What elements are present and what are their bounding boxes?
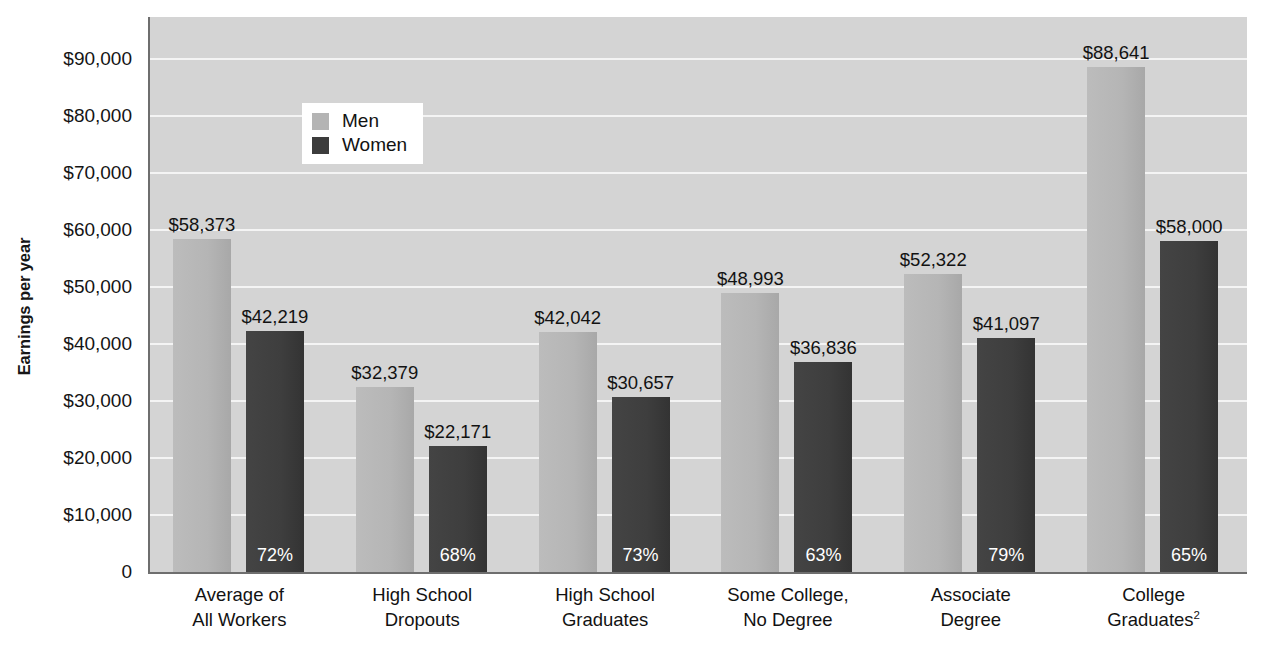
x-label-line-2: Graduates	[514, 607, 697, 632]
x-axis-category-label: AssociateDegree	[879, 582, 1062, 632]
x-axis-category-label: High SchoolDropouts	[331, 582, 514, 632]
x-label-line-2: Graduates2	[1062, 607, 1245, 632]
y-axis-tick-label: $90,000	[63, 48, 132, 70]
legend-swatch-men-icon	[312, 113, 329, 130]
y-axis-tick-label: $30,000	[63, 390, 132, 412]
chart-legend: MenWomen	[302, 103, 423, 164]
bar-men[interactable]: $88,641	[1087, 67, 1145, 572]
bar-group: $88,641$58,00065%	[150, 17, 1247, 572]
y-axis-tick-label: $20,000	[63, 447, 132, 469]
footnote-marker: 2	[1194, 609, 1200, 621]
x-axis-category-label: High SchoolGraduates	[514, 582, 697, 632]
bar-ratio-label: 65%	[1171, 545, 1207, 566]
bar-chart: Earnings per year 0$10,000$20,000$30,000…	[0, 0, 1268, 659]
legend-item-women[interactable]: Women	[312, 133, 407, 157]
x-axis-category-label: Average ofAll Workers	[148, 582, 331, 632]
bar-value-label: $58,000	[1156, 216, 1223, 238]
y-axis-tick-label: $70,000	[63, 162, 132, 184]
x-axis-category-label: CollegeGraduates2	[1062, 582, 1245, 632]
bar-value-label: $88,641	[1083, 42, 1150, 64]
x-axis-category-labels: Average ofAll WorkersHigh SchoolDropouts…	[148, 582, 1245, 652]
x-label-line-1: Associate	[931, 584, 1011, 605]
y-axis-tick-labels: 0$10,000$20,000$30,000$40,000$50,000$60,…	[0, 0, 140, 659]
y-axis-tick-label: $10,000	[63, 504, 132, 526]
x-label-line-2: No Degree	[697, 607, 880, 632]
y-axis-tick-label: $60,000	[63, 219, 132, 241]
x-axis-category-label: Some College,No Degree	[697, 582, 880, 632]
legend-label: Women	[342, 134, 407, 156]
x-label-line-1: Some College,	[727, 584, 848, 605]
x-label-line-1: College	[1122, 584, 1185, 605]
x-label-line-2: Dropouts	[331, 607, 514, 632]
x-label-line-1: High School	[372, 584, 472, 605]
plot-area: $58,373$42,21972%$32,379$22,17168%$42,04…	[148, 17, 1247, 574]
x-label-line-2: All Workers	[148, 607, 331, 632]
x-label-line-1: Average of	[195, 584, 284, 605]
x-label-line-2: Degree	[879, 607, 1062, 632]
y-axis-tick-label: $80,000	[63, 105, 132, 127]
y-axis-tick-label: $40,000	[63, 333, 132, 355]
legend-swatch-women-icon	[312, 137, 329, 154]
y-axis-tick-label: $50,000	[63, 276, 132, 298]
y-axis-tick-label: 0	[121, 561, 132, 583]
legend-label: Men	[342, 110, 379, 132]
x-label-line-1: High School	[555, 584, 655, 605]
legend-item-men[interactable]: Men	[312, 109, 407, 133]
bar-women[interactable]: $58,00065%	[1160, 241, 1218, 572]
